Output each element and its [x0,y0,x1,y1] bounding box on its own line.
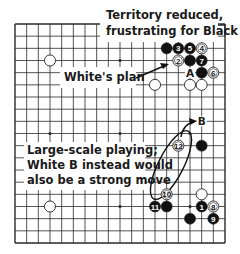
move-number: 1 [199,203,204,212]
move-number: 3 [176,44,181,53]
large-scale-note-line-3: also be a strong move [27,173,173,188]
white-stone [149,79,160,90]
go-board-diagram: 354276121011189 AB Territory reduced, fr… [0,0,240,254]
b-arrow [181,122,194,137]
large-scale-note-line-1: Large-scale playing; [27,143,173,158]
move-number: 7 [199,57,204,66]
star-point [118,205,121,208]
large-scale-note-line-2: White B instead would [27,158,173,173]
top-note-line-2: frustrating for Black [106,23,238,39]
star-point [118,132,121,135]
move-number: 11 [151,203,160,212]
white-stone [196,79,207,90]
white-stone [196,189,207,200]
top-note-line-1: Territory reduced, [106,7,238,23]
white-stone [184,79,195,90]
move-number: 4 [199,44,204,53]
move-number: 5 [188,44,193,53]
star-point [48,132,51,135]
black-stone [161,43,172,54]
move-number: 8 [211,203,216,212]
plan-arrow-head [160,63,169,69]
move-number: 6 [211,69,216,78]
black-stone [161,201,172,212]
top-note: Territory reduced, frustrating for Black [106,7,238,39]
black-stone [196,140,207,151]
large-scale-note: Large-scale playing; White B instead wou… [27,143,173,188]
plan-note: White's plan [64,70,145,85]
black-stone [196,67,207,78]
white-stone [44,201,55,212]
move-number: 12 [174,142,183,151]
star-point [118,59,121,62]
black-stone [184,213,195,224]
b-arrow-head [189,118,197,125]
move-number: 2 [176,57,181,66]
point-label-a: A [186,67,195,79]
star-point [188,205,191,208]
point-label-b: B [198,115,206,127]
white-stone [44,55,55,66]
move-number: 10 [162,190,171,199]
black-stone [184,55,195,66]
move-number: 9 [211,215,216,224]
